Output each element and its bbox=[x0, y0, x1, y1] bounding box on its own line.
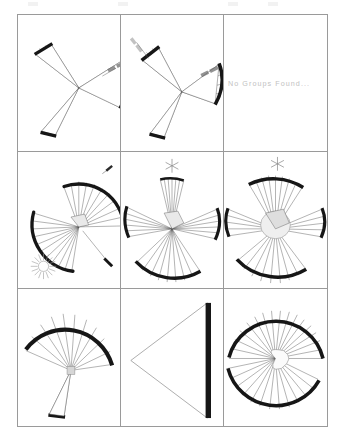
panel-r2c2[interactable] bbox=[121, 152, 224, 289]
no-groups-found-message: No Groups Found... bbox=[228, 79, 310, 88]
panel-r3c2[interactable] bbox=[121, 289, 224, 426]
asterisk-marker bbox=[166, 159, 179, 173]
panel-r2c1[interactable] bbox=[18, 152, 121, 289]
panel-r2c3[interactable] bbox=[224, 152, 327, 289]
panel-r3c3[interactable] bbox=[224, 289, 327, 426]
asterisk-marker bbox=[271, 157, 284, 171]
panel-r1c2[interactable] bbox=[121, 15, 224, 152]
panel-r1c1[interactable] bbox=[18, 15, 121, 152]
top-artifacts bbox=[0, 0, 344, 12]
panel-grid: No Groups Found... bbox=[17, 14, 328, 427]
tick-marker bbox=[102, 166, 112, 174]
panel-r3c1[interactable] bbox=[18, 289, 121, 426]
screenshot-root: No Groups Found... bbox=[0, 0, 344, 444]
panel-r1c3[interactable]: No Groups Found... bbox=[224, 15, 327, 152]
